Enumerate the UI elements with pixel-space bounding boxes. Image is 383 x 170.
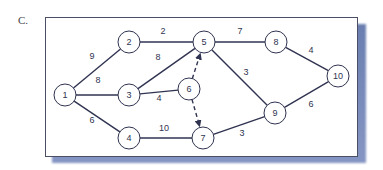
svg-text:3: 3 <box>126 90 131 100</box>
svg-text:5: 5 <box>201 37 206 47</box>
node-5: 5 <box>193 31 215 53</box>
edge-weight-label: 10 <box>159 123 169 133</box>
edge-1-4 <box>74 101 120 132</box>
edge-weight-label: 7 <box>237 26 242 36</box>
edge-weight-label: 9 <box>89 51 94 61</box>
node-9: 9 <box>264 102 286 124</box>
edge-weight-label: 4 <box>156 93 161 103</box>
svg-text:2: 2 <box>126 37 131 47</box>
edge-weight-label: 2 <box>160 26 165 36</box>
node-10: 10 <box>327 65 349 87</box>
dummy-activity-arrow <box>192 100 200 127</box>
node-7: 7 <box>192 127 214 149</box>
node-2: 2 <box>118 31 140 53</box>
edge-weight-label: 8 <box>95 75 100 85</box>
node-8: 8 <box>265 31 287 53</box>
svg-text:6: 6 <box>186 84 191 94</box>
node-4: 4 <box>118 127 140 149</box>
edge-9-10 <box>284 82 328 108</box>
node-3: 3 <box>118 84 140 106</box>
edge-5-9 <box>212 50 267 105</box>
edge-weight-label: 3 <box>243 67 248 77</box>
edge-weight-label: 8 <box>155 52 160 62</box>
svg-text:10: 10 <box>333 71 343 81</box>
node-6: 6 <box>178 78 200 100</box>
dummy-activity-arrow <box>192 53 200 78</box>
svg-text:9: 9 <box>272 108 277 118</box>
edge-weight-label: 6 <box>89 115 94 125</box>
edge-8-10 <box>286 47 329 70</box>
edge-weight-label: 6 <box>308 99 313 109</box>
node-1: 1 <box>54 84 76 106</box>
svg-text:4: 4 <box>126 133 131 143</box>
edge-weight-label: 3 <box>239 128 244 138</box>
svg-text:7: 7 <box>200 133 205 143</box>
edge-weight-label: 4 <box>308 45 313 55</box>
network-graph: 9862841073463 12345678910 <box>0 0 383 170</box>
svg-text:8: 8 <box>273 37 278 47</box>
svg-text:1: 1 <box>62 90 67 100</box>
